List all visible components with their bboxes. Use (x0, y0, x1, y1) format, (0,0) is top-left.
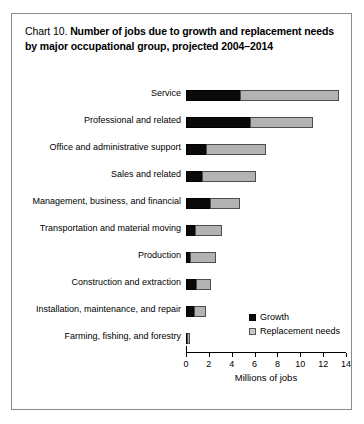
x-tick (186, 353, 187, 357)
bar-segment-replacement (250, 117, 313, 128)
x-tick-label: 10 (290, 359, 310, 369)
x-axis-title: Millions of jobs (186, 372, 346, 383)
legend-swatch-replacement-icon (249, 328, 256, 335)
category-label: Installation, maintenance, and repair (36, 304, 181, 314)
bar-segment-growth (186, 117, 251, 128)
stacked-bar (186, 171, 256, 182)
bar-segment-replacement (190, 252, 216, 263)
bar-row: Transportation and material moving (186, 217, 346, 244)
stacked-bar (186, 279, 211, 290)
stacked-bar (186, 198, 240, 209)
x-axis-line (186, 352, 346, 353)
x-tick-label: 8 (267, 359, 287, 369)
bar-segment-replacement (206, 144, 267, 155)
chart-title-text: Number of jobs due to growth and replace… (25, 25, 334, 52)
x-tick (300, 353, 301, 357)
x-tick (209, 353, 210, 357)
stacked-bar (186, 225, 222, 236)
x-tick-label: 12 (313, 359, 333, 369)
stacked-bar (186, 90, 339, 101)
bar-row: Service (186, 82, 346, 109)
bar-row: Professional and related (186, 109, 346, 136)
bar-segment-replacement (194, 306, 205, 317)
x-tick-label: 2 (199, 359, 219, 369)
category-label: Farming, fishing, and forestry (64, 331, 181, 341)
bar-segment-growth (186, 171, 203, 182)
bar-segment-replacement (202, 171, 256, 182)
chart-title: Chart 10. Number of jobs due to growth a… (25, 24, 337, 53)
category-label: Office and administrative support (50, 142, 181, 152)
chart-number: Chart 10. (25, 25, 67, 37)
bar-row: Production (186, 244, 346, 271)
chart-legend: Growth Replacement needs (249, 312, 340, 340)
x-tick-label: 14 (336, 359, 356, 369)
category-label: Management, business, and financial (32, 196, 181, 206)
legend-swatch-growth-icon (249, 314, 256, 321)
legend-item-growth: Growth (249, 312, 340, 322)
legend-label-growth: Growth (260, 312, 289, 322)
stacked-bar (186, 144, 266, 155)
bar-row: Construction and extraction (186, 271, 346, 298)
chart-figure: Chart 10. Number of jobs due to growth a… (11, 13, 352, 410)
bar-segment-replacement (196, 279, 211, 290)
category-label: Transportation and material moving (40, 223, 181, 233)
bar-segment-growth (186, 198, 211, 209)
bar-row: Management, business, and financial (186, 190, 346, 217)
x-tick (255, 353, 256, 357)
bar-segment-replacement (187, 333, 190, 344)
bar-segment-growth (186, 144, 207, 155)
bar-segment-replacement (210, 198, 240, 209)
x-tick (277, 353, 278, 357)
bar-row: Sales and related (186, 163, 346, 190)
bar-segment-replacement (195, 225, 221, 236)
legend-item-replacement: Replacement needs (249, 326, 340, 336)
bar-segment-growth (186, 90, 241, 101)
bar-segment-replacement (240, 90, 339, 101)
category-label: Production (138, 250, 181, 260)
x-tick (232, 353, 233, 357)
category-label: Construction and extraction (71, 277, 181, 287)
category-label: Sales and related (111, 169, 181, 179)
x-tick-label: 0 (176, 359, 196, 369)
stacked-bar (186, 117, 313, 128)
stacked-bar (186, 252, 216, 263)
x-tick (346, 353, 347, 357)
legend-label-replacement: Replacement needs (260, 326, 340, 336)
x-tick-label: 4 (222, 359, 242, 369)
x-tick (323, 353, 324, 357)
bar-row: Office and administrative support (186, 136, 346, 163)
category-label: Service (151, 88, 181, 98)
stacked-bar (186, 306, 206, 317)
x-tick-label: 6 (245, 359, 265, 369)
category-label: Professional and related (84, 115, 181, 125)
stacked-bar (186, 333, 190, 344)
